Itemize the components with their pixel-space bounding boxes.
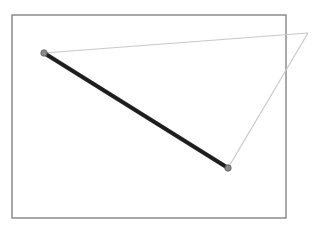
vertex-point-b[interactable] — [225, 165, 231, 171]
diagram-canvas — [0, 0, 313, 229]
vertex-point-a[interactable] — [41, 50, 47, 56]
thin-segment-cb — [228, 33, 308, 168]
thick-segment-ab — [44, 53, 228, 168]
thin-segment-ac — [44, 33, 308, 53]
